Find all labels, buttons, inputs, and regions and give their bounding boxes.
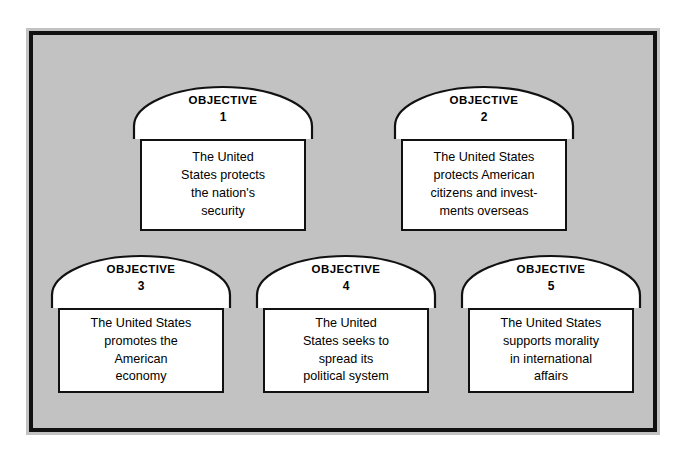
objective-card-1: OBJECTIVE 1 The United States protects t… [133, 86, 313, 231]
objective-card-5: OBJECTIVE 5 The United States supports m… [461, 255, 641, 393]
objective-body-4: The United States seeks to spread its po… [263, 308, 429, 393]
objective-card-4: OBJECTIVE 4 The United States seeks to s… [256, 255, 436, 393]
figure-frame: OBJECTIVE 1 The United States protects t… [25, 27, 661, 436]
objective-label-4: OBJECTIVE [256, 264, 436, 276]
objective-body-3: The United States promotes the American … [58, 308, 224, 393]
figure-frame-inner: OBJECTIVE 1 The United States protects t… [29, 31, 657, 432]
objective-number-1: 1 [133, 111, 313, 123]
objective-text-5: The United States supports morality in i… [495, 315, 608, 387]
objective-body-2: The United States protects American citi… [401, 139, 567, 231]
objective-body-5: The United States supports morality in i… [468, 308, 634, 393]
objective-card-2: OBJECTIVE 2 The United States protects A… [394, 86, 574, 231]
objective-number-4: 4 [256, 280, 436, 292]
objective-label-3: OBJECTIVE [51, 264, 231, 276]
objective-text-3: The United States promotes the American … [85, 315, 198, 387]
objective-text-1: The United States protects the nation's … [175, 149, 271, 221]
objective-text-2: The United States protects American citi… [424, 149, 543, 221]
objective-label-5: OBJECTIVE [461, 264, 641, 276]
objective-number-5: 5 [461, 280, 641, 292]
objective-number-2: 2 [394, 111, 574, 123]
objective-body-1: The United States protects the nation's … [140, 139, 306, 231]
objective-text-4: The United States seeks to spread its po… [297, 315, 395, 387]
diagram-surface: OBJECTIVE 1 The United States protects t… [33, 35, 653, 428]
objective-label-2: OBJECTIVE [394, 95, 574, 107]
objective-number-3: 3 [51, 280, 231, 292]
objective-card-3: OBJECTIVE 3 The United States promotes t… [51, 255, 231, 393]
objective-label-1: OBJECTIVE [133, 95, 313, 107]
